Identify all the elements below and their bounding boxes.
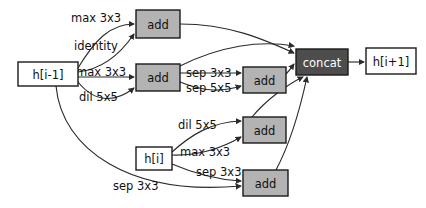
- edge-add1-to-concat: [180, 24, 294, 53]
- edge-label-e10: sep 3x3: [113, 179, 158, 193]
- node-add5[interactable]: add: [243, 170, 288, 196]
- edge-label-e3: max 3x3: [76, 65, 126, 79]
- edge-add3-to-concat: [286, 64, 294, 74]
- node-h_next[interactable]: h[i+1]: [366, 48, 416, 74]
- architecture-graph: max 3x3identitymax 3x3dil 5x5sep 3x3sep …: [0, 0, 426, 208]
- edge-label-e6: sep 5x5: [186, 81, 231, 95]
- edge-label-e7: dil 5x5: [178, 118, 217, 132]
- node-add3[interactable]: add: [243, 67, 286, 93]
- node-label-add2: add: [147, 71, 169, 85]
- node-label-add3: add: [254, 74, 276, 88]
- node-h_prev[interactable]: h[i-1]: [18, 62, 78, 86]
- node-add2[interactable]: add: [136, 64, 180, 91]
- node-label-h_prev: h[i-1]: [33, 68, 64, 82]
- node-add1[interactable]: add: [136, 10, 180, 38]
- node-label-concat: concat: [303, 56, 342, 70]
- edge-label-e2: identity: [74, 39, 118, 53]
- edge-label-e9: sep 3x3: [196, 165, 241, 179]
- edge-add2-to-concat: [180, 44, 294, 66]
- node-label-add5: add: [255, 177, 277, 191]
- node-concat[interactable]: concat: [296, 49, 348, 75]
- node-add4[interactable]: add: [243, 117, 286, 143]
- diagram-canvas: max 3x3identitymax 3x3dil 5x5sep 3x3sep …: [0, 0, 426, 208]
- node-label-add4: add: [254, 124, 276, 138]
- edge-label-e1: max 3x3: [71, 11, 121, 25]
- node-h_cur[interactable]: h[i]: [136, 147, 172, 170]
- node-label-h_next: h[i+1]: [373, 55, 409, 69]
- node-label-h_cur: h[i]: [144, 152, 163, 166]
- edge-label-e5: sep 3x3: [186, 66, 231, 80]
- node-label-add1: add: [147, 18, 169, 32]
- edge-label-e8: max 3x3: [180, 145, 230, 159]
- edge-label-e4: dil 5x5: [79, 90, 118, 104]
